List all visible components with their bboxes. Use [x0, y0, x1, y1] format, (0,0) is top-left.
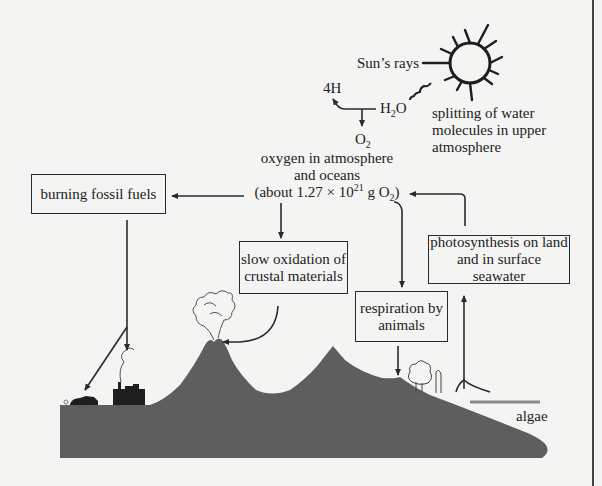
- sun-icon: [423, 25, 502, 100]
- fork-lines: [456, 380, 490, 392]
- wavy-ray-icon: [410, 83, 431, 100]
- hydrogen-label: 4H: [323, 80, 341, 97]
- volcano-smoke-icon: [193, 291, 235, 340]
- car-icon: [64, 396, 98, 405]
- factory-icon: [113, 348, 145, 405]
- respiration-by-animals-box: respiration by animals: [355, 291, 448, 342]
- oxygen-cycle-diagram: Sun’s rays 4H H2O O2 splitting of water …: [0, 0, 602, 486]
- burning-fossil-fuels-box: burning fossil fuels: [31, 174, 166, 214]
- splitting-label: splitting of water molecules in upper at…: [432, 105, 546, 156]
- oxygen-product-label: O2: [355, 131, 371, 148]
- oxygen-reservoir-label: oxygen in atmosphere and oceans (about 1…: [245, 150, 409, 201]
- frame-right-border: [592, 0, 594, 486]
- arrow-from-photosynthesis: [410, 194, 465, 226]
- algae-label: algae: [516, 408, 548, 425]
- photosynthesis-box: photosynthesis on land and in surface se…: [428, 235, 570, 284]
- arrow-to-respiration: [394, 202, 402, 287]
- arrow-oxidation-to-volcano: [223, 306, 278, 342]
- sun-rays-label: Sun’s rays: [357, 55, 419, 72]
- arrow-to-hydrogen: [333, 99, 376, 109]
- slow-oxidation-box: slow oxidation of crustal materials: [239, 241, 348, 294]
- water-label: H2O: [380, 100, 407, 117]
